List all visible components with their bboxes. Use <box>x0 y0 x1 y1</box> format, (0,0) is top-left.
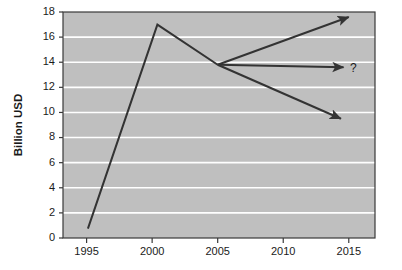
line-chart: ? 19952000200520102015 024681012141618 B… <box>0 0 402 270</box>
x-axis-tick-labels: 19952000200520102015 <box>74 238 361 257</box>
chart-container: ? 19952000200520102015 024681012141618 B… <box>0 0 402 270</box>
chart-annotations: ? <box>350 61 357 75</box>
x-tick-label-2005: 2005 <box>205 245 229 257</box>
y-tick-label-16: 16 <box>43 30 55 42</box>
plot-background <box>63 12 375 238</box>
x-tick-label-2000: 2000 <box>140 245 164 257</box>
y-tick-label-12: 12 <box>43 80 55 92</box>
annotation-label-0: ? <box>350 61 357 75</box>
y-tick-label-2: 2 <box>49 206 55 218</box>
y-tick-label-10: 10 <box>43 105 55 117</box>
y-tick-label-0: 0 <box>49 231 55 243</box>
y-tick-label-14: 14 <box>43 55 55 67</box>
x-tick-label-2015: 2015 <box>337 245 361 257</box>
y-tick-label-4: 4 <box>49 181 55 193</box>
plot-area <box>63 12 375 238</box>
y-axis-title: Billion USD <box>12 94 24 157</box>
y-tick-label-18: 18 <box>43 5 55 17</box>
y-tick-label-8: 8 <box>49 130 55 142</box>
y-tick-label-6: 6 <box>49 156 55 168</box>
y-axis-tick-labels: 024681012141618 <box>43 5 63 243</box>
x-tick-label-2010: 2010 <box>271 245 295 257</box>
x-tick-label-1995: 1995 <box>74 245 98 257</box>
